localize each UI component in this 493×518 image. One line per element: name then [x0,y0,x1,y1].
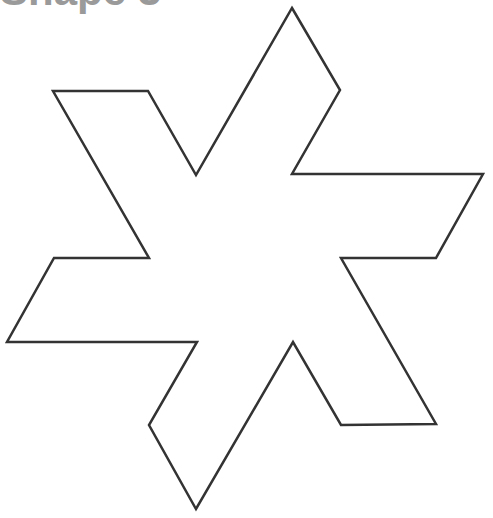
shape-canvas [0,0,493,518]
star-shape-outline [7,8,483,509]
